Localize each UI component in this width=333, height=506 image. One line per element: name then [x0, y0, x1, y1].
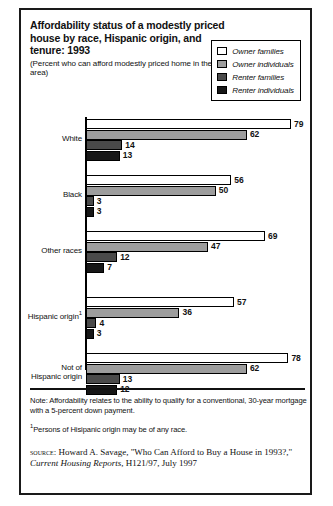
footnote-text: 1Persons of Hisipanic origin may be of a…	[30, 425, 307, 435]
bar-row: 3	[86, 329, 312, 339]
bar-group: Black565033	[21, 175, 310, 217]
note-text: Note: Affordability relates to the abili…	[30, 396, 307, 415]
category-label: Not ofHispanic origin	[31, 363, 82, 381]
bar-value-label: 56	[234, 175, 243, 186]
category-label-line: Hispanic origin	[31, 372, 82, 381]
bar	[86, 364, 247, 374]
category-label-line: Hispanic origin1	[28, 312, 82, 321]
bar	[86, 297, 234, 307]
bar	[86, 374, 120, 384]
bar-group: Other races6947127	[21, 231, 310, 273]
chart-legend: Owner familiesOwner individualsRenter fa…	[211, 40, 301, 101]
legend-item: Renter individuals	[217, 84, 294, 96]
bar-row: 36	[86, 308, 312, 318]
bar-value-label: 12	[120, 252, 129, 263]
footnote-body: Persons of Hisipanic origin may be of an…	[33, 425, 187, 434]
legend-item: Renter families	[217, 71, 294, 83]
category-footnote-marker: 1	[79, 310, 82, 316]
legend-swatch-icon	[217, 47, 227, 55]
bar-value-label: 78	[291, 353, 300, 364]
bar-value-label: 3	[97, 206, 102, 217]
legend-item: Owner families	[217, 45, 294, 57]
bar	[86, 175, 231, 185]
bar-value-label: 13	[123, 374, 132, 385]
bar-chart: White79621413Black565033Other races69471…	[21, 113, 310, 378]
bar-value-label: 47	[211, 241, 220, 252]
source-part-two: , H121/97, July 1997	[121, 458, 197, 468]
bar-value-label: 50	[219, 185, 228, 196]
bar-value-label: 12	[120, 384, 129, 395]
bar-row: 14	[86, 140, 312, 150]
bar-value-label: 36	[182, 307, 191, 318]
bar-row: 57	[86, 297, 312, 307]
category-label-line: Not of	[31, 363, 82, 372]
bar	[86, 252, 117, 262]
legend-item-label: Renter individuals	[232, 86, 294, 95]
category-label: White	[62, 134, 82, 143]
bar-row: 7	[86, 263, 312, 273]
bar	[86, 186, 216, 196]
bar-row: 4	[86, 318, 312, 328]
horizontal-divider	[30, 388, 305, 390]
bar-value-label: 57	[237, 297, 246, 308]
bar-row: 62	[86, 364, 312, 374]
bar	[86, 329, 94, 339]
bar-row: 56	[86, 175, 312, 185]
legend-swatch-icon	[217, 86, 227, 94]
bar-row: 12	[86, 385, 312, 395]
bar	[86, 353, 288, 363]
bar	[86, 196, 94, 206]
bar-row: 3	[86, 196, 312, 206]
bar	[86, 119, 291, 129]
source-text: source: Howard A. Savage, "Who Can Affor…	[30, 447, 307, 470]
bar-value-label: 4	[99, 318, 104, 329]
legend-item-label: Owner families	[232, 47, 284, 56]
bar	[86, 385, 117, 395]
bar-value-label: 7	[107, 262, 112, 273]
bar-row: 13	[86, 374, 312, 384]
bar-row: 13	[86, 151, 312, 161]
bar-value-label: 62	[250, 363, 259, 374]
notes-block: Note: Affordability relates to the abili…	[30, 396, 307, 470]
figure-subtitle: (Percent who can afford modestly priced …	[30, 59, 225, 78]
category-label-line: Other races	[41, 246, 82, 255]
category-label-line: White	[62, 134, 82, 143]
bar-row: 78	[86, 353, 312, 363]
bar-value-label: 62	[250, 129, 259, 140]
bar-row: 12	[86, 252, 312, 262]
legend-swatch-icon	[217, 60, 227, 68]
bar-value-label: 69	[268, 231, 277, 242]
bar-group: White79621413	[21, 119, 310, 161]
legend-item-label: Renter families	[232, 73, 284, 82]
bar	[86, 231, 265, 241]
category-label: Other races	[41, 246, 82, 255]
legend-item: Owner individuals	[217, 58, 294, 70]
bar-row: 62	[86, 130, 312, 140]
figure-panel: Affordability status of a modestly price…	[19, 8, 312, 495]
bar-value-label: 3	[97, 328, 102, 339]
bar	[86, 242, 208, 252]
category-label-line: Black	[63, 190, 82, 199]
bar	[86, 318, 96, 328]
legend-swatch-icon	[217, 73, 227, 81]
bar-row: 50	[86, 186, 312, 196]
category-label: Black	[63, 190, 82, 199]
bar-row: 79	[86, 119, 312, 129]
source-part-one: Howard A. Savage, "Who Can Afford to Buy…	[58, 447, 292, 457]
source-prefix: source	[30, 447, 54, 457]
bar-row: 47	[86, 242, 312, 252]
bar	[86, 308, 179, 318]
bar	[86, 140, 122, 150]
figure-title: Affordability status of a modestly price…	[30, 19, 230, 57]
bar	[86, 130, 247, 140]
category-label: Hispanic origin1	[28, 312, 82, 321]
bar-row: 69	[86, 231, 312, 241]
bar	[86, 207, 94, 217]
bar-value-label: 14	[125, 140, 134, 151]
bar-group: Hispanic origin1573643	[21, 297, 310, 339]
bar-row: 3	[86, 207, 312, 217]
source-publication: Current Housing Reports	[30, 458, 121, 468]
bar	[86, 151, 120, 161]
bar-value-label: 3	[97, 196, 102, 207]
bar-value-label: 13	[123, 150, 132, 161]
